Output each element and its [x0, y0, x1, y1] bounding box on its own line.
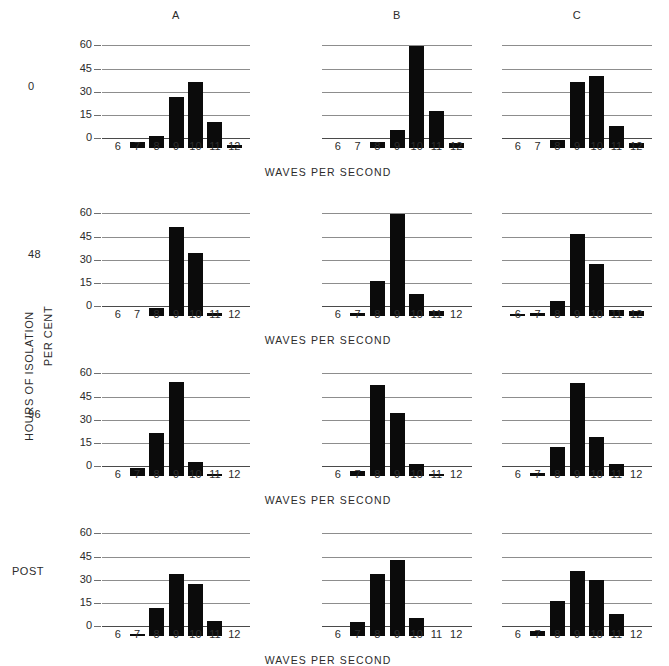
y-tick-mark	[94, 373, 101, 374]
panel-b-48: 6789101112	[322, 198, 472, 316]
x-tick-label: 6	[329, 469, 347, 480]
x-tick-label: 8	[368, 141, 386, 152]
x-tick-label: 10	[588, 629, 606, 640]
x-tick-label: 6	[509, 469, 527, 480]
y-tick-mark	[94, 138, 101, 139]
y-tick-mark	[94, 115, 101, 116]
bar-group	[102, 528, 250, 636]
y-tick-label: 15	[66, 437, 92, 448]
x-tick-label: 10	[408, 469, 426, 480]
x-tick-label: 12	[447, 629, 465, 640]
y-tick-mark	[94, 466, 101, 467]
x-tick-label: 7	[349, 629, 367, 640]
bar	[188, 82, 203, 148]
x-tick-label: 6	[329, 309, 347, 320]
x-tick-label: 8	[548, 309, 566, 320]
y-tick-label: 0	[66, 132, 92, 143]
x-tick-label: 11	[607, 141, 625, 152]
x-tick-label: 12	[447, 309, 465, 320]
x-tick-label: 7	[128, 469, 146, 480]
y-tick-mark	[94, 260, 101, 261]
x-tick-label: 10	[588, 309, 606, 320]
y-tick-mark	[94, 397, 101, 398]
y-tick-mark	[94, 557, 101, 558]
x-tick-label: 12	[627, 309, 645, 320]
y-tick-label: 60	[66, 39, 92, 50]
x-tick-label: 8	[368, 469, 386, 480]
x-tick-label: 11	[206, 141, 224, 152]
x-axis-title: WAVES PER SECOND	[198, 334, 458, 346]
x-tick-label: 12	[627, 629, 645, 640]
x-tick-label: 9	[167, 309, 185, 320]
y-tick-mark	[94, 283, 101, 284]
x-tick-label: 11	[427, 141, 445, 152]
x-tick-label: 7	[128, 629, 146, 640]
row-label-post: POST	[12, 565, 44, 577]
row-label-48: 48	[28, 248, 41, 260]
x-tick-label: 10	[186, 309, 204, 320]
x-tick-label: 8	[548, 629, 566, 640]
bar-group	[102, 40, 250, 148]
y-tick-label: 0	[66, 620, 92, 631]
y-tick-mark	[94, 45, 101, 46]
x-tick-label: 12	[225, 141, 243, 152]
bar	[169, 227, 184, 316]
panel-c-0: C6789101112	[502, 30, 652, 148]
x-tick-label: 8	[148, 309, 166, 320]
bar	[370, 574, 385, 636]
x-axis-title: WAVES PER SECOND	[198, 166, 458, 178]
y-tick-label: 60	[66, 367, 92, 378]
x-tick-label: 9	[167, 141, 185, 152]
x-tick-label: 12	[225, 629, 243, 640]
panel-b-0: B6789101112	[322, 30, 472, 148]
x-tick-label: 6	[509, 141, 527, 152]
x-tick-label: 10	[408, 309, 426, 320]
panel-c-48: 6789101112	[502, 198, 652, 316]
y-tick-label: 0	[66, 300, 92, 311]
x-tick-label: 10	[186, 629, 204, 640]
x-tick-label: 7	[529, 629, 547, 640]
x-tick-label: 7	[529, 141, 547, 152]
x-tick-label: 7	[349, 309, 367, 320]
panel-title-a: A	[102, 9, 250, 21]
x-tick-label: 7	[349, 141, 367, 152]
x-tick-label: 11	[607, 469, 625, 480]
bar-group	[502, 528, 652, 636]
x-tick-label: 12	[627, 469, 645, 480]
bar-group	[502, 368, 652, 476]
x-tick-label: 10	[408, 629, 426, 640]
y-tick-mark	[94, 443, 101, 444]
panel-title-c: C	[502, 9, 652, 21]
panel-a-48: 6789101112	[102, 198, 250, 316]
x-tick-label: 9	[388, 629, 406, 640]
x-tick-label: 11	[206, 629, 224, 640]
bar-group	[322, 528, 472, 636]
panel-b-96: 6789101112	[322, 358, 472, 476]
x-tick-label: 6	[509, 629, 527, 640]
bar	[169, 382, 184, 476]
x-tick-label: 6	[509, 309, 527, 320]
x-tick-label: 7	[529, 309, 547, 320]
bar	[570, 383, 585, 476]
x-tick-label: 11	[206, 309, 224, 320]
x-tick-label: 11	[206, 469, 224, 480]
y-tick-label: 30	[66, 254, 92, 265]
bar-group	[502, 40, 652, 148]
x-tick-label: 10	[588, 469, 606, 480]
y-tick-mark	[94, 626, 101, 627]
bar	[570, 571, 585, 636]
y-tick-label: 30	[66, 86, 92, 97]
y-tick-label: 45	[66, 551, 92, 562]
x-tick-label: 8	[148, 629, 166, 640]
x-tick-label: 7	[349, 469, 367, 480]
x-tick-label: 11	[607, 309, 625, 320]
y-tick-label: 30	[66, 574, 92, 585]
hours-of-isolation-axis-label: HOURS OF ISOLATION	[23, 301, 35, 451]
y-tick-label: 15	[66, 597, 92, 608]
panel-c-96: 6789101112	[502, 358, 652, 476]
x-tick-label: 12	[225, 469, 243, 480]
x-tick-label: 11	[607, 629, 625, 640]
y-tick-label: 45	[66, 63, 92, 74]
x-tick-label: 12	[447, 469, 465, 480]
